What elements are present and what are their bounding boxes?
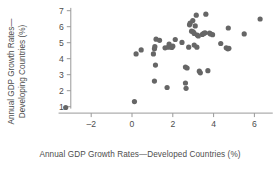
data-series-countries xyxy=(63,12,263,110)
data-point xyxy=(164,85,169,90)
plot-area: –202461234567 xyxy=(0,0,280,172)
data-point xyxy=(194,13,199,18)
y-tick-label: 7 xyxy=(59,6,64,16)
data-point xyxy=(202,30,207,35)
data-point xyxy=(242,31,247,36)
data-point xyxy=(133,51,138,56)
y-axis-title-line-2: Developing Countries (%) xyxy=(17,8,28,136)
data-point xyxy=(132,99,137,104)
data-point xyxy=(258,16,263,21)
y-tick-label: 3 xyxy=(59,70,64,80)
data-point xyxy=(151,51,156,56)
data-point xyxy=(184,65,189,70)
x-tick-label: 0 xyxy=(130,119,135,129)
y-axis-title: Annual GDP Growth Rates— Developing Coun… xyxy=(7,8,28,136)
data-point xyxy=(183,80,188,85)
y-tick-label: 6 xyxy=(59,22,64,32)
y-tick-label: 4 xyxy=(59,54,64,64)
data-point xyxy=(193,23,198,28)
data-point xyxy=(157,38,162,43)
data-point xyxy=(226,46,231,51)
data-point xyxy=(226,25,231,30)
data-point xyxy=(186,45,191,50)
data-point xyxy=(139,47,144,52)
y-tick-label: 5 xyxy=(59,38,64,48)
y-axis-title-line-1: Annual GDP Growth Rates— xyxy=(7,8,18,136)
scatter-chart: –202461234567 Annual GDP Growth Rates— D… xyxy=(0,0,280,172)
data-point xyxy=(63,105,68,110)
x-tick-label: 4 xyxy=(211,119,216,129)
x-tick-label: 2 xyxy=(170,119,175,129)
x-tick-label: 6 xyxy=(252,119,257,129)
data-point xyxy=(153,63,158,68)
x-tick-label: –2 xyxy=(86,119,96,129)
data-point xyxy=(203,12,208,17)
data-point xyxy=(170,44,175,49)
x-axis-title: Annual GDP Growth Rates—Developed Countr… xyxy=(0,150,280,159)
data-point xyxy=(210,32,215,37)
data-point xyxy=(218,41,223,46)
data-point xyxy=(183,86,188,91)
plot-canvas: –202461234567 xyxy=(0,0,280,172)
data-point xyxy=(179,40,184,45)
data-point xyxy=(190,18,195,23)
data-point xyxy=(205,68,210,73)
data-point xyxy=(152,79,157,84)
data-point xyxy=(152,44,157,49)
data-point xyxy=(173,37,178,42)
data-point xyxy=(194,45,199,50)
data-point xyxy=(198,70,203,75)
y-tick-label: 2 xyxy=(59,86,64,96)
